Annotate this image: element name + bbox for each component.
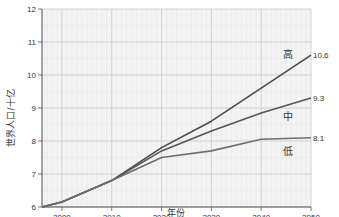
- x-axis-ticks: 200020102020203020402050: [53, 207, 320, 217]
- x-axis-title: 年份: [167, 207, 185, 217]
- series-name-label: 中: [283, 110, 293, 122]
- x-tick-label: 2030: [202, 213, 220, 217]
- y-axis-title: 世界人口/十亿: [5, 89, 16, 146]
- population-line-chart: 6789101112 200020102020203020402050 10.6…: [0, 0, 339, 217]
- series-end-value: 8.1: [313, 134, 325, 143]
- y-tick-label: 10: [27, 71, 36, 80]
- y-tick-label: 9: [32, 104, 37, 113]
- y-tick-label: 8: [32, 137, 37, 146]
- x-tick-label: 2040: [252, 213, 270, 217]
- y-tick-label: 6: [32, 203, 37, 212]
- y-tick-label: 7: [32, 170, 37, 179]
- series-end-value: 10.6: [313, 51, 329, 60]
- y-tick-label: 11: [28, 38, 37, 47]
- series-end-value: 9.3: [313, 94, 325, 103]
- y-axis-ticks: 6789101112: [27, 5, 42, 212]
- series-name-label: 高: [283, 48, 293, 60]
- x-tick-label: 2010: [103, 213, 121, 217]
- x-tick-label: 2000: [53, 213, 71, 217]
- series-name-label: 低: [283, 145, 293, 157]
- x-tick-label: 2050: [302, 213, 320, 217]
- y-tick-label: 12: [27, 5, 36, 14]
